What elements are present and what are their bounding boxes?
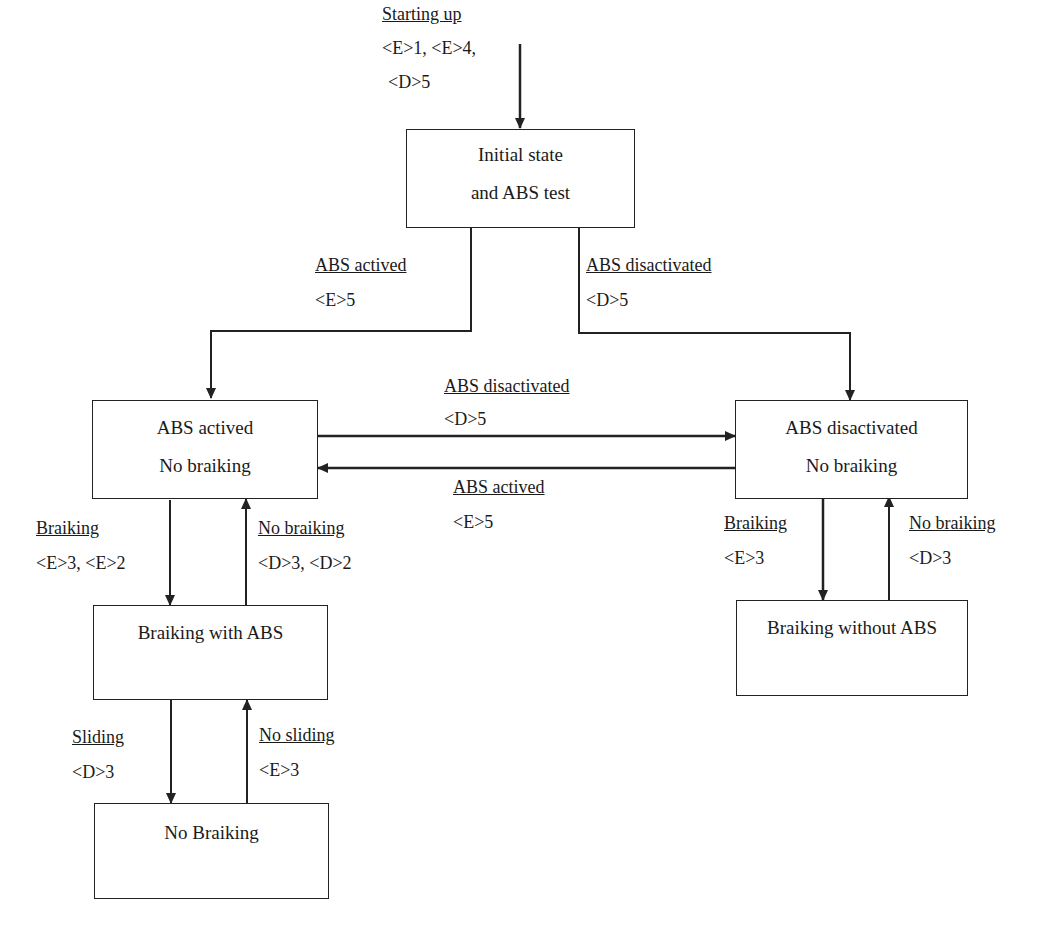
condition-text: <D>3, <D>2: [258, 553, 352, 574]
arrow-init-to-abs-on: [211, 228, 471, 398]
event-text: ABS disactivated: [586, 255, 711, 276]
condition-text: <E>3, <E>2: [36, 553, 126, 574]
label-init-to-abs-on: ABS actived <E>5: [315, 255, 407, 311]
condition-text: <E>3: [724, 548, 787, 569]
event-text: No braiking: [258, 518, 352, 539]
state-label: No braiking: [93, 447, 317, 485]
label-no-slide: No sliding <E>3: [259, 725, 335, 781]
state-label: Braiking without ABS: [737, 609, 967, 647]
event-text: Starting up: [382, 4, 476, 25]
label-on-release: No braiking <D>3, <D>2: [258, 518, 352, 574]
label-slide: Sliding <D>3: [72, 727, 124, 783]
condition-text: <D>3: [72, 762, 124, 783]
state-initial: Initial state and ABS test: [406, 129, 635, 228]
condition-text: <D>3: [909, 548, 995, 569]
event-text: No braiking: [909, 513, 995, 534]
state-no-braiking: No Braiking: [94, 803, 329, 899]
event-text: ABS disactivated: [444, 376, 569, 397]
arrow-init-to-abs-off: [579, 228, 850, 400]
condition-text: <E>1, <E>4,: [382, 38, 476, 59]
label-init-to-abs-off: ABS disactivated <D>5: [586, 255, 711, 311]
state-label: ABS actived: [93, 409, 317, 447]
event-text: ABS actived: [315, 255, 407, 276]
label-off-release: No braiking <D>3: [909, 513, 995, 569]
state-braiking-without-abs: Braiking without ABS: [736, 600, 968, 696]
condition-text: <E>3: [259, 760, 335, 781]
condition-text: <D>5: [444, 409, 569, 430]
event-text: ABS actived: [453, 477, 545, 498]
label-on-brake: Braiking <E>3, <E>2: [36, 518, 126, 574]
event-text: Braiking: [36, 518, 126, 539]
condition-text: <E>5: [453, 512, 545, 533]
event-text: No sliding: [259, 725, 335, 746]
event-text: Braiking: [724, 513, 787, 534]
state-label: Braiking with ABS: [94, 614, 327, 652]
event-text: Sliding: [72, 727, 124, 748]
label-on-to-off: ABS disactivated <D>5: [444, 376, 569, 430]
state-label: Initial state: [407, 136, 634, 174]
condition-text: <E>5: [315, 290, 407, 311]
state-label: and ABS test: [407, 174, 634, 212]
label-off-brake: Braiking <E>3: [724, 513, 787, 569]
state-braiking-with-abs: Braiking with ABS: [93, 605, 328, 700]
label-off-to-on: ABS actived <E>5: [453, 477, 545, 533]
state-label: No Braiking: [95, 814, 328, 852]
condition-text: <D>5: [388, 72, 476, 93]
state-label: ABS disactivated: [736, 409, 967, 447]
label-starting-up: Starting up <E>1, <E>4, <D>5: [382, 4, 476, 93]
state-abs-actived-no-braking: ABS actived No braiking: [92, 400, 318, 499]
state-label: No braiking: [736, 447, 967, 485]
condition-text: <D>5: [586, 290, 711, 311]
state-abs-disactivated-no-braking: ABS disactivated No braiking: [735, 400, 968, 499]
